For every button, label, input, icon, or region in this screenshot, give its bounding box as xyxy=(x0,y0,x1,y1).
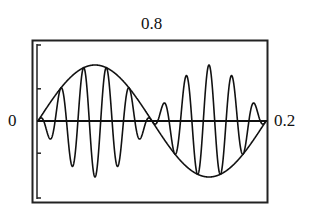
plot-area xyxy=(0,0,310,211)
